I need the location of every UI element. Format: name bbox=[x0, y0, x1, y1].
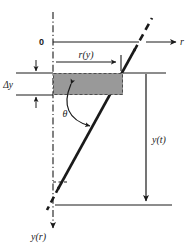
inclined-line-dashed-upper bbox=[134, 18, 152, 51]
delta-y-label: Δy bbox=[2, 80, 14, 90]
origin-label: 0 bbox=[39, 37, 44, 47]
ry-label: r(y) bbox=[79, 49, 95, 61]
radial-axis-label: r bbox=[180, 36, 184, 47]
technical-diagram: r(y) 0 r y(r) Δy θ y(t) bbox=[0, 0, 193, 249]
delta-y-dimension-group: Δy bbox=[2, 60, 53, 108]
slab-fill bbox=[53, 73, 123, 95]
yt-label: y(t) bbox=[151, 134, 167, 146]
angle-label: θ bbox=[63, 108, 68, 119]
ry-dimension-group: r(y) bbox=[56, 49, 121, 71]
control-volume-slab bbox=[53, 73, 123, 95]
vertical-axis-label: y(r) bbox=[30, 231, 47, 243]
inclined-line-solid bbox=[58, 49, 135, 189]
